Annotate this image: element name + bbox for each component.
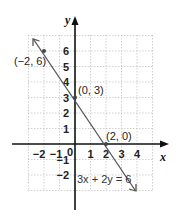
svg-text:−2: −2 (33, 148, 46, 160)
svg-text:3: 3 (118, 148, 124, 160)
svg-text:3: 3 (63, 92, 69, 104)
point-2-0 (104, 142, 108, 146)
svg-text:−1: −1 (56, 154, 69, 166)
svg-text:4: 4 (134, 148, 141, 160)
svg-text:1: 1 (63, 123, 69, 135)
equation-label: 3x + 2y = 6 (77, 173, 131, 185)
svg-text:4: 4 (63, 76, 70, 88)
y-axis-arrow-icon (72, 16, 79, 25)
svg-text:5: 5 (63, 61, 69, 73)
svg-text:2: 2 (63, 107, 69, 119)
svg-text:1: 1 (87, 148, 93, 160)
x-axis-arrow-icon (160, 141, 169, 148)
svg-text:−2: −2 (56, 169, 69, 181)
label-point-neg2-6: (−2, 6) (14, 55, 46, 67)
x-tick-labels: −2 −1 0 1 2 3 4 (33, 146, 141, 160)
x-axis-label: x (159, 150, 166, 164)
svg-text:6: 6 (63, 45, 69, 57)
point-0-3 (73, 96, 77, 100)
label-point-0-3: (0, 3) (78, 84, 104, 96)
graph: y x −2 −1 0 1 2 3 4 6 5 4 3 2 1 −1 −2 (−… (0, 0, 176, 217)
point-neg2-6 (42, 49, 46, 53)
y-axis-label: y (63, 13, 71, 27)
label-point-2-0: (2, 0) (106, 130, 132, 142)
line-3x-2y-6 (34, 40, 135, 190)
